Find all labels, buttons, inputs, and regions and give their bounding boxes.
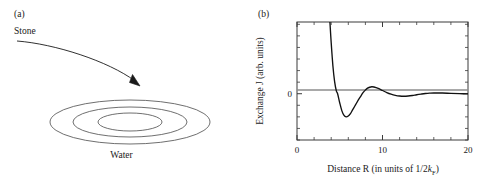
exchange-plot: 01020 0 Distance R (in units of 1/2kF) E… [243,0,486,182]
ripple-inner [98,113,162,131]
ripple-ellipses [50,100,210,144]
exchange-curve [330,22,468,117]
y-tick-label: 0 [288,89,293,99]
falling-stone-arrow [17,41,140,86]
x-axis-label: Distance R (in units of 1/2kF) [327,164,439,176]
x-tick-label: 20 [464,145,474,155]
y-axis-minor-ticks [297,24,468,140]
ripple-middle [73,107,187,137]
water-label: Water [0,150,243,160]
x-tick-label: 0 [295,145,300,155]
y-axis-tick-labels: 0 [288,89,293,99]
plot-frame [297,22,468,140]
y-axis-label: Exchange J (arb. units) [255,37,266,125]
x-axis-major-ticks [297,22,468,140]
panel-b: (b) 01020 0 Distance R (in units of 1/2k… [243,0,486,182]
x-tick-label: 10 [378,145,388,155]
x-axis-tick-labels: 01020 [295,145,473,155]
panel-a: (a) Stone Water [0,0,243,182]
figure-container: (a) Stone Water (b) [0,0,486,182]
